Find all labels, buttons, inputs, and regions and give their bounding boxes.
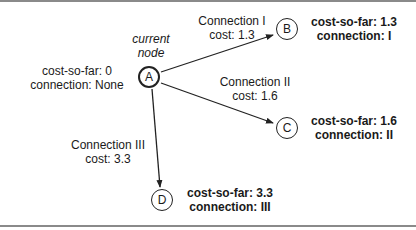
node-d-connection: connection: III [176,200,284,214]
node-a-cost: cost-so-far: 0 [24,64,130,78]
node-c-connection: connection: II [302,128,406,142]
edge-a-d-cost: cost: 3.3 [62,152,154,166]
caption-line-1: current [126,32,176,46]
node-a[interactable]: A [138,66,160,88]
node-b[interactable]: B [276,18,298,40]
node-d-label: D [158,193,167,207]
node-b-info: cost-so-far: 1.3 connection: I [302,15,406,43]
edge-a-b-label: Connection I cost: 1.3 [188,14,276,42]
node-b-connection: connection: I [302,29,406,43]
edge-a-d-name: Connection III [62,138,154,152]
caption-line-2: node [126,46,176,60]
current-node-caption: current node [126,32,176,60]
node-c[interactable]: C [276,117,298,139]
node-d-cost: cost-so-far: 3.3 [176,186,284,200]
edge-a-b-name: Connection I [188,14,276,28]
edge-a-b-cost: cost: 1.3 [188,28,276,42]
node-c-cost: cost-so-far: 1.6 [302,114,406,128]
edge-a-c-cost: cost: 1.6 [208,89,302,103]
edge-a-d-label: Connection III cost: 3.3 [62,138,154,166]
node-d[interactable]: D [151,189,173,211]
node-b-label: B [283,22,291,36]
edge-a-c-name: Connection II [208,75,302,89]
node-b-cost: cost-so-far: 1.3 [302,15,406,29]
node-a-label: A [145,70,153,84]
node-a-info: cost-so-far: 0 connection: None [24,64,130,92]
node-c-info: cost-so-far: 1.6 connection: II [302,114,406,142]
node-d-info: cost-so-far: 3.3 connection: III [176,186,284,214]
node-c-label: C [283,121,292,135]
edge-a-c-label: Connection II cost: 1.6 [208,75,302,103]
node-a-connection: connection: None [24,78,130,92]
